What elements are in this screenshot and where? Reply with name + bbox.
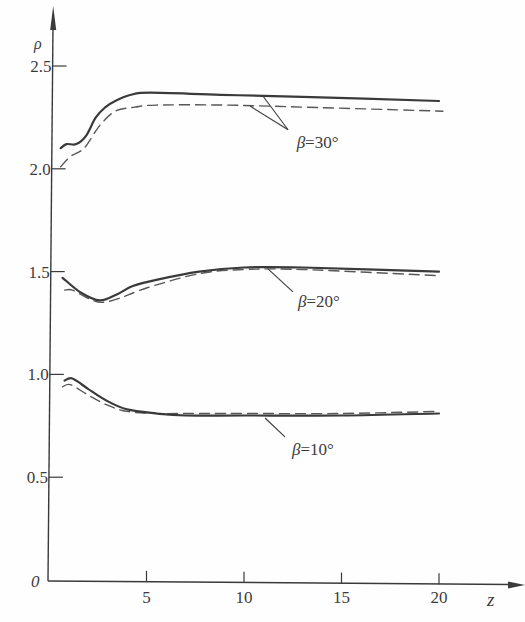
axes (48, 6, 525, 589)
y-axis-title: ρ (33, 35, 42, 53)
y-tick-label: 0.5 (27, 468, 48, 487)
annotation-leader-line (250, 106, 288, 130)
data-series (61, 93, 443, 416)
x-tick-label: 10 (236, 588, 253, 607)
chart-figure: 0.51.01.52.02.55101520 β=30°β=20°β=10° ρ… (0, 0, 525, 622)
x-tick-label: 20 (431, 588, 448, 607)
annotation-leader-line (263, 96, 288, 130)
line-chart: 0.51.01.52.02.55101520 β=30°β=20°β=10° ρ… (0, 0, 525, 622)
angle-value: =20° (306, 292, 339, 311)
y-tick-label: 2.5 (30, 57, 51, 76)
y-axis-line (48, 24, 53, 581)
x-axis-line (48, 581, 512, 585)
series-line-dashed (63, 384, 439, 413)
angle-value: =10° (300, 440, 333, 459)
x-axis-arrow-icon (508, 582, 525, 589)
series-line-dashed (65, 269, 439, 303)
y-axis-arrow-icon (50, 6, 56, 30)
angle-value: =30° (305, 133, 338, 152)
annotation-leader-line (265, 418, 285, 437)
curve-label: β=10° (291, 440, 334, 459)
x-axis-title: z (486, 589, 495, 610)
y-tick-label: 1.5 (28, 263, 49, 282)
curve-annotations: β=30°β=20°β=10° (250, 96, 340, 459)
series-line-dashed (61, 105, 443, 167)
y-tick-label: 1.0 (28, 365, 49, 384)
x-tick-label: 5 (142, 588, 151, 607)
x-tick-label: 15 (333, 588, 350, 607)
y-tick-label: 2.0 (29, 160, 50, 179)
series-line-solid (63, 267, 439, 300)
annotation-leader-line (268, 269, 293, 292)
series-line-solid (61, 93, 439, 149)
curve-label: β=30° (296, 133, 339, 152)
curve-label: β=20° (297, 292, 340, 311)
origin-label: 0 (31, 572, 40, 591)
